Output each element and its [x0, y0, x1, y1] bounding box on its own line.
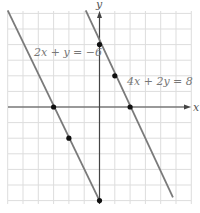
- line2-label: 4x + 2y = 8: [126, 75, 193, 88]
- plotted-lines: [8, 10, 173, 200]
- point-marker: [66, 136, 71, 141]
- point-marker: [97, 198, 102, 203]
- point-marker: [112, 73, 117, 78]
- line1-label: 2x + y = −6: [33, 46, 102, 59]
- coordinate-plane: 2x + y = −6 4x + 2y = 8 x y: [0, 0, 200, 213]
- x-axis-arrow-icon: [184, 105, 191, 110]
- y-axis-arrow-icon: [97, 11, 102, 18]
- point-marker: [51, 104, 56, 109]
- x-axis-label: x: [193, 101, 200, 114]
- y-axis-label: y: [95, 0, 103, 11]
- point-marker: [128, 104, 133, 109]
